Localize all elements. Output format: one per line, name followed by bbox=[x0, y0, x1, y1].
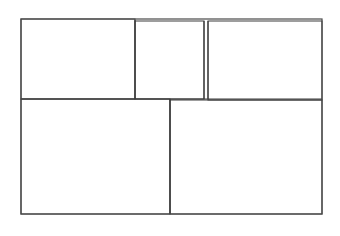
diagram-canvas: Partition Layout Diagram Line drawing of… bbox=[0, 0, 340, 236]
partition-layout-diagram bbox=[0, 0, 340, 236]
